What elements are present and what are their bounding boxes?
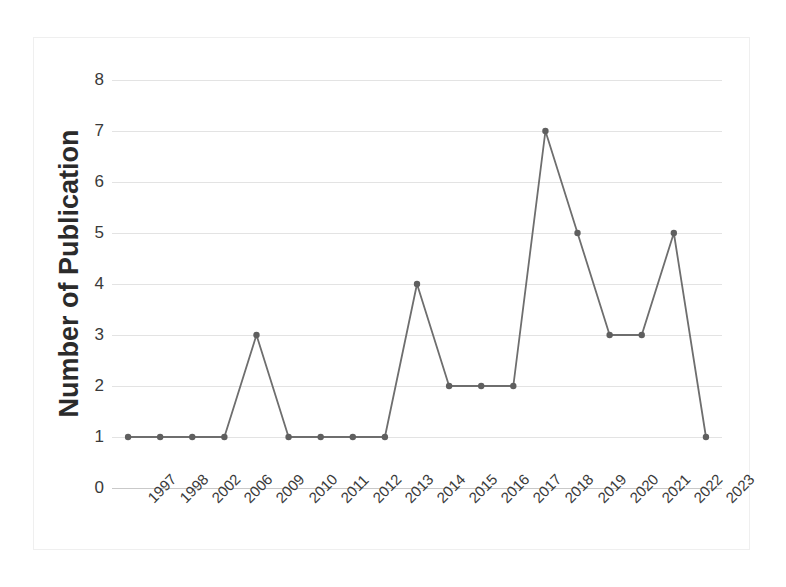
y-tick-label: 4: [78, 274, 104, 294]
y-tick-label: 2: [78, 376, 104, 396]
data-point-marker: [703, 434, 709, 440]
y-tick-label: 1: [78, 427, 104, 447]
y-tick-label: 7: [78, 121, 104, 141]
plot-area: [112, 80, 722, 488]
data-point-marker: [189, 434, 195, 440]
figure: Number of Publication 012345678 19971998…: [0, 0, 786, 587]
y-tick-label: 8: [78, 70, 104, 90]
data-point-marker: [157, 434, 163, 440]
data-point-marker: [382, 434, 388, 440]
data-point-marker: [606, 332, 612, 338]
data-point-marker: [542, 128, 548, 134]
line-series: [112, 80, 722, 488]
data-point-marker: [478, 383, 484, 389]
data-point-marker: [639, 332, 645, 338]
y-tick-label: 3: [78, 325, 104, 345]
data-point-marker: [221, 434, 227, 440]
data-point-marker: [125, 434, 131, 440]
data-point-marker: [446, 383, 452, 389]
y-axis-tick-labels: 012345678: [78, 80, 104, 488]
data-point-marker: [253, 332, 259, 338]
data-point-marker: [317, 434, 323, 440]
data-point-marker: [285, 434, 291, 440]
data-point-marker: [671, 230, 677, 236]
data-point-marker: [574, 230, 580, 236]
y-tick-label: 0: [78, 478, 104, 498]
data-point-marker: [510, 383, 516, 389]
x-axis-tick-labels: 1997199820022006200920102011201220132014…: [112, 488, 722, 550]
data-point-marker: [414, 281, 420, 287]
y-tick-label: 5: [78, 223, 104, 243]
y-tick-label: 6: [78, 172, 104, 192]
data-point-marker: [350, 434, 356, 440]
